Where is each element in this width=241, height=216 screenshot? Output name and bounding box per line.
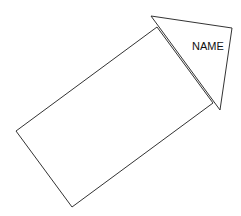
arrow-head-label: NAME xyxy=(192,40,224,52)
arrow-diagram: NAME xyxy=(0,0,241,216)
